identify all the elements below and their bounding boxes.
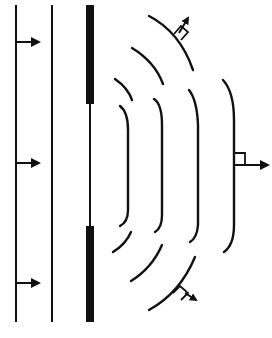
barrier-upper-block (86, 5, 94, 104)
wavefront-3-arc-upper (149, 16, 193, 70)
incident-arrows (16, 42, 38, 283)
right-angle-marker (234, 153, 245, 165)
wavefront-3-arc-lower (149, 257, 195, 310)
wavefront-2-arc-upper (132, 48, 163, 84)
wavefront-3 (189, 90, 198, 242)
wavefront-1-arc-lower (113, 232, 131, 252)
wavefront-1 (120, 106, 128, 226)
wavefront-2-arc-lower (131, 245, 162, 281)
barrier-lower-block (86, 226, 94, 322)
diffraction-diagram (0, 0, 272, 338)
barrier (86, 5, 94, 322)
wavefront-4 (223, 80, 234, 252)
diffracted-wavefronts (113, 16, 234, 310)
wavefront-2 (154, 99, 162, 232)
propagation-arrows (173, 18, 267, 300)
wavefront-1-arc-upper (115, 79, 132, 100)
